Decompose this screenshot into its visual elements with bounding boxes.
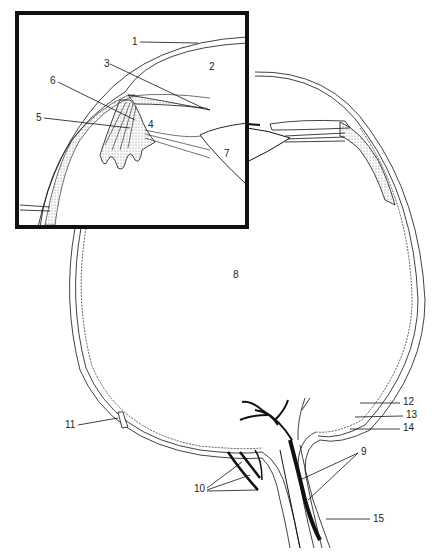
eye-cross-section-drawing (0, 0, 439, 555)
label-10: 10 (194, 484, 205, 494)
vortex-veins (228, 450, 262, 490)
optic-nerve (240, 398, 330, 548)
label-14: 14 (403, 423, 414, 433)
label-13: 13 (406, 410, 417, 420)
label-7: 7 (224, 149, 230, 159)
label-2: 2 (209, 62, 215, 72)
label-3: 3 (104, 59, 110, 69)
label-12: 12 (403, 397, 414, 407)
right-ciliary-body (247, 120, 395, 205)
label-11: 11 (65, 420, 75, 430)
label-8: 8 (233, 270, 239, 280)
label-9: 9 (361, 447, 367, 457)
vessel-stub (118, 412, 128, 428)
label-15: 15 (373, 514, 384, 524)
label-1: 1 (132, 37, 138, 47)
label-4: 4 (148, 120, 154, 130)
eye-diagram: 1 2 3 4 5 6 7 8 9 10 11 12 13 14 15 (0, 0, 439, 555)
label-5: 5 (36, 113, 42, 123)
label-6: 6 (50, 76, 56, 86)
